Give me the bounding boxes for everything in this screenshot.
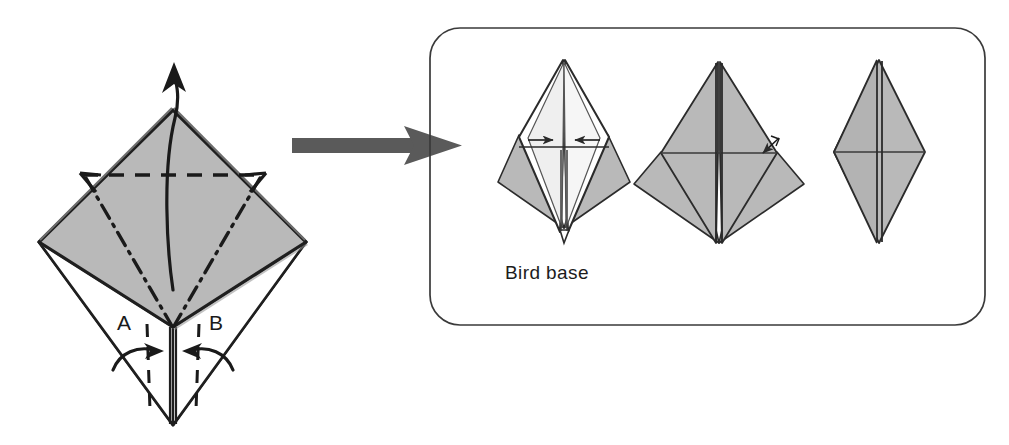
transition-arrow — [292, 126, 462, 165]
diagram-canvas: A B — [0, 0, 1009, 445]
figure-bird-base-flattened — [634, 62, 804, 243]
origami-diagram-svg: A B — [0, 0, 1009, 445]
petal-arrow-head — [162, 62, 186, 93]
label-flap-b: B — [209, 311, 223, 334]
left-diagram: A B — [39, 62, 308, 425]
figure-bird-base-front — [498, 60, 630, 243]
fold-arrowhead-right-b — [245, 173, 266, 175]
front-bottom-tail — [560, 230, 569, 243]
figure-bird-base-narrow — [834, 60, 925, 243]
transition-arrow-shaft — [292, 138, 420, 153]
label-flap-a: A — [117, 311, 131, 334]
panel-caption: Bird base — [505, 262, 589, 283]
fold-arrowhead-left-b — [80, 173, 101, 175]
result-panel: Bird base — [430, 28, 985, 325]
